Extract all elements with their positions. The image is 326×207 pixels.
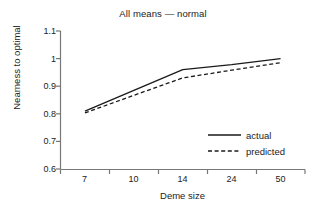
plot-area bbox=[0, 0, 326, 207]
series-line-actual bbox=[85, 59, 281, 111]
chart-figure: All means — normal Nearness to optimal D… bbox=[0, 0, 326, 207]
